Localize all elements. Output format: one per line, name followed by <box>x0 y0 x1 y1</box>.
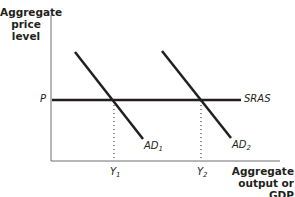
p-tick-label: P <box>40 93 46 104</box>
x-axis-label-line: output or GDP <box>226 177 294 197</box>
x-axis-label: Aggregate output or GDP <box>226 165 294 197</box>
y-axis-label-line: level <box>0 30 52 42</box>
ad1-label: AD1 <box>144 140 163 153</box>
y-axis-label-line: Aggregate <box>0 6 52 18</box>
x-axis-label-line: Aggregate <box>226 165 294 177</box>
ad1-curve <box>75 52 143 139</box>
ad2-label-sub: 2 <box>247 144 251 152</box>
ad2-label-text: AD <box>232 139 247 150</box>
y-axis-label: Aggregate price level <box>0 6 52 42</box>
y-axis-label-line: price <box>0 18 52 30</box>
y1-tick-label: Y1 <box>110 166 121 179</box>
y2-tick-sub: 2 <box>203 171 207 179</box>
ad1-label-sub: 1 <box>159 145 163 153</box>
y2-tick-label: Y2 <box>197 166 208 179</box>
ad2-curve <box>162 51 231 138</box>
ad1-label-text: AD <box>144 140 159 151</box>
ad2-label: AD2 <box>232 139 251 152</box>
sras-label: SRAS <box>244 93 270 104</box>
y1-tick-sub: 1 <box>116 171 120 179</box>
